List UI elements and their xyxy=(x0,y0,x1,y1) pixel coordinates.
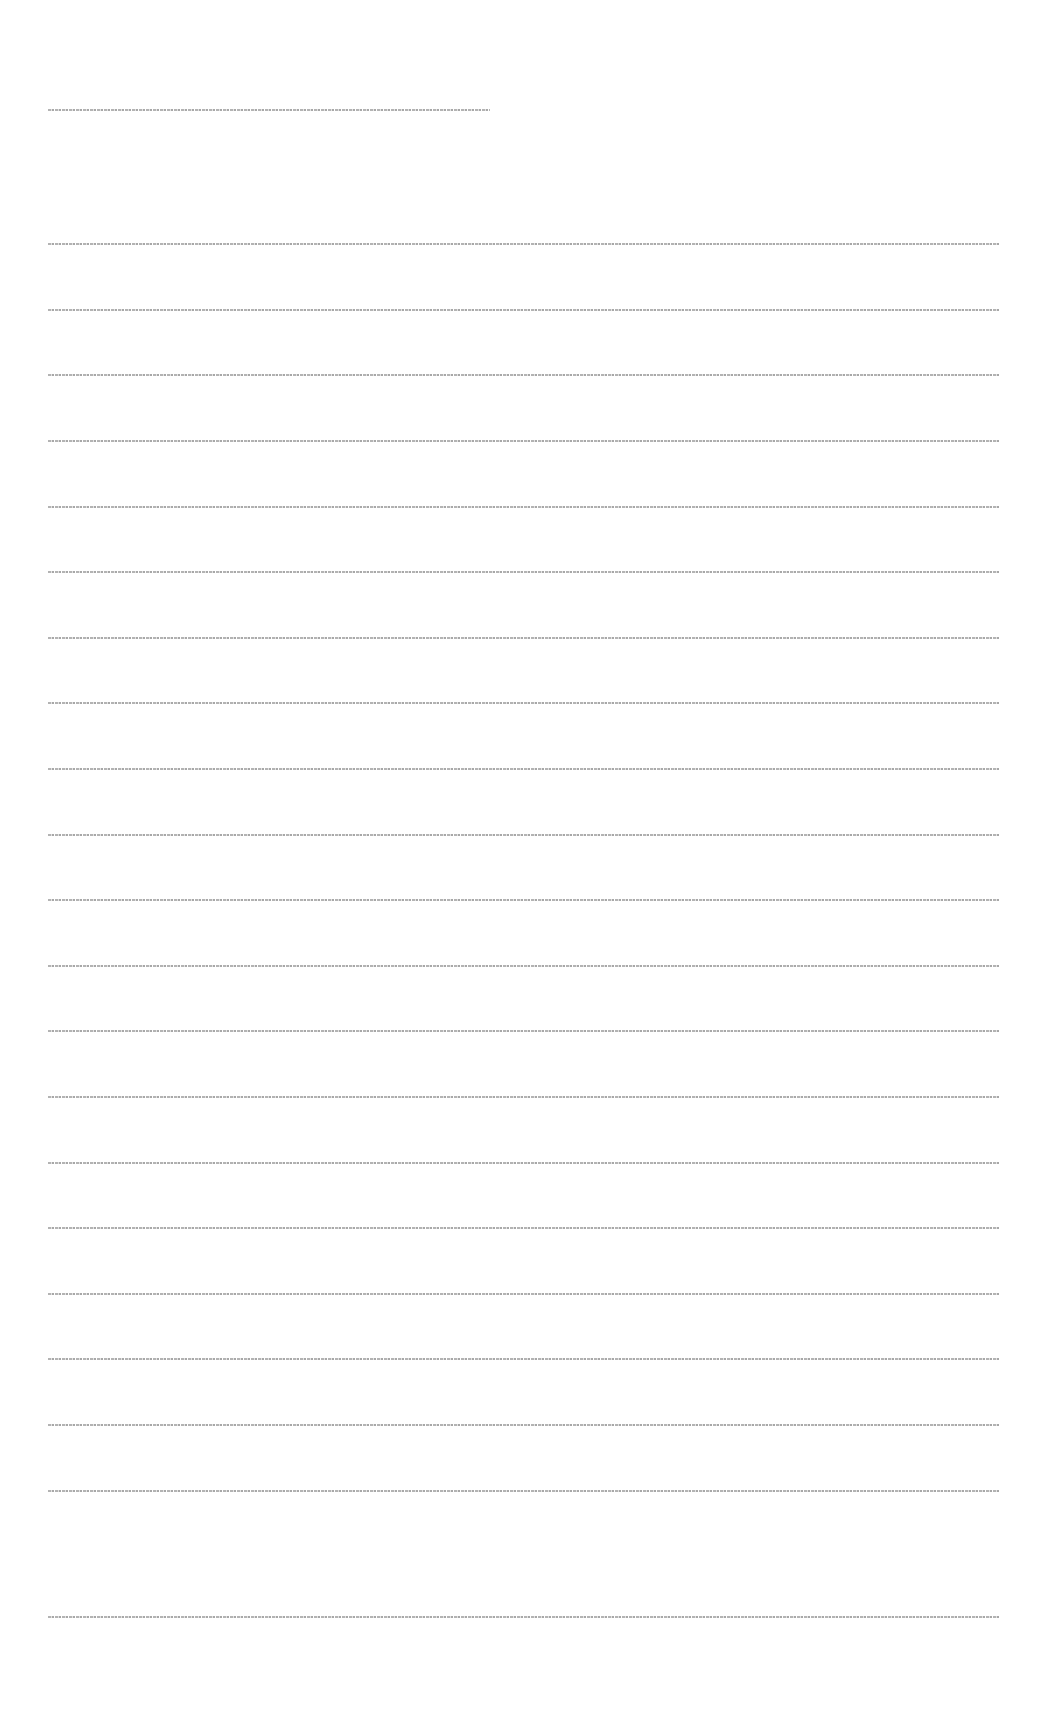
text-line xyxy=(48,571,1000,573)
text-line xyxy=(48,1424,1000,1426)
text-line xyxy=(48,1616,1000,1618)
text-line xyxy=(48,965,1000,967)
text-line xyxy=(48,440,1000,442)
text-line xyxy=(48,1358,1000,1360)
text-line xyxy=(48,243,1000,245)
text-line xyxy=(48,834,1000,836)
text-line xyxy=(48,1227,1000,1229)
text-line xyxy=(48,1096,1000,1098)
text-line xyxy=(48,899,1000,901)
text-line xyxy=(48,1030,1000,1032)
text-line xyxy=(48,1490,1000,1492)
title-line xyxy=(48,109,490,111)
text-line xyxy=(48,309,1000,311)
text-line xyxy=(48,637,1000,639)
text-line xyxy=(48,1162,1000,1164)
text-line xyxy=(48,374,1000,376)
text-line xyxy=(48,506,1000,508)
text-line xyxy=(48,702,1000,704)
text-line xyxy=(48,1293,1000,1295)
text-line xyxy=(48,768,1000,770)
